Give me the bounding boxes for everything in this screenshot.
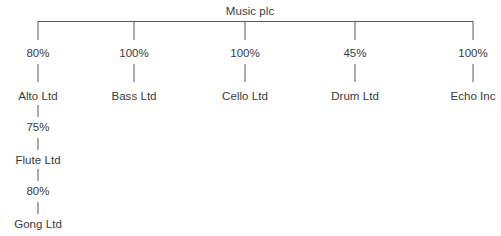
node-gong-ltd: Gong Ltd [14,218,62,231]
ownership-label-gong: 80% [26,185,49,198]
node-drum-ltd: Drum Ltd [331,90,379,103]
connector-tick-echo [473,64,474,82]
connector-tick-alto-to-flute-upper [38,105,39,117]
connector-tick-alto [38,64,39,82]
connector-horizontal-bar [38,21,473,22]
connector-tick-flute-to-gong-upper [38,169,39,181]
ownership-label-drum: 45% [343,47,366,60]
node-echo-inc: Echo Inc [450,90,495,103]
root-node-music-plc: Music plc [226,5,274,18]
organisation-chart: Music plc 80% 100% 100% 45% 100% Alto Lt… [0,0,501,236]
connector-drop-bass [134,21,135,40]
connector-tick-bass [134,64,135,82]
node-flute-ltd: Flute Ltd [15,154,60,167]
connector-tick-alto-to-flute-lower [38,138,39,150]
ownership-label-cello: 100% [230,47,260,60]
connector-tick-cello [245,64,246,82]
connector-drop-alto [38,21,39,40]
ownership-label-echo: 100% [458,47,488,60]
ownership-label-alto: 80% [26,47,49,60]
connector-drop-echo [473,21,474,40]
ownership-label-flute: 75% [26,121,49,134]
connector-tick-flute-to-gong-lower [38,202,39,214]
node-bass-ltd: Bass Ltd [111,90,156,103]
node-alto-ltd: Alto Ltd [18,90,57,103]
ownership-label-bass: 100% [119,47,149,60]
connector-drop-cello [245,21,246,40]
connector-drop-drum [355,21,356,40]
connector-tick-drum [355,64,356,82]
node-cello-ltd: Cello Ltd [222,90,268,103]
